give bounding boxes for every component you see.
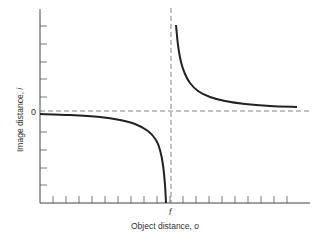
x-axis-label: Object distance, o <box>131 221 199 231</box>
y-axis-label: Image distance, i <box>15 87 25 152</box>
f-tick-label: f <box>169 207 173 217</box>
y-zero-label: 0 <box>31 107 36 117</box>
lens-equation-chart: 0 f Object distance, o Image distance, i <box>0 0 324 243</box>
curve-real-image-branch <box>176 25 297 107</box>
y-ticks <box>40 26 47 185</box>
x-ticks <box>53 196 287 203</box>
curve-virtual-image-branch <box>40 114 166 203</box>
